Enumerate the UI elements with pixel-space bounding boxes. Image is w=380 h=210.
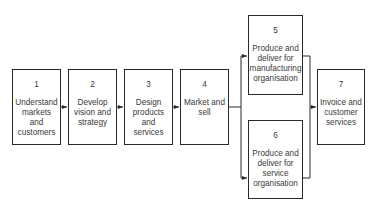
process-box-3: 3 Design products and services (124, 69, 173, 145)
step-number: 3 (146, 80, 151, 90)
process-box-1: 1 Understand markets and customers (12, 69, 61, 145)
process-box-4: 4 Market and sell (180, 69, 229, 145)
step-number: 4 (202, 80, 207, 90)
step-label: Design products and services (125, 98, 172, 138)
step-label: Market and sell (181, 98, 228, 118)
step-number: 7 (339, 80, 344, 90)
process-box-2: 2 Develop vision and strategy (68, 69, 117, 145)
step-label: Understand markets and customers (13, 98, 60, 138)
step-label: Invoice and customer services (318, 98, 364, 128)
step-label: Develop vision and strategy (69, 98, 116, 128)
step-label: Produce and deliver for service organisa… (249, 149, 302, 189)
process-box-7: 7 Invoice and customer services (317, 69, 365, 145)
step-number: 1 (34, 80, 39, 90)
step-number: 6 (273, 131, 278, 141)
step-label: Produce and deliver for manufacturing or… (249, 44, 303, 84)
process-box-6: 6 Produce and deliver for service organi… (248, 120, 303, 199)
step-number: 5 (273, 26, 278, 36)
process-box-5: 5 Produce and deliver for manufacturing … (248, 15, 303, 95)
step-number: 2 (90, 80, 95, 90)
